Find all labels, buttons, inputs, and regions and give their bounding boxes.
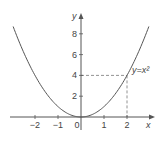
x-axis-arrow-icon — [149, 115, 155, 120]
x-axis-label: x — [145, 120, 151, 130]
dashed-guide-lines — [81, 75, 127, 117]
x-tick-label: −2 — [30, 120, 40, 130]
y-tick-label: 2 — [72, 91, 77, 101]
x-tick-label: −1 — [53, 120, 63, 130]
y-axis-arrow-icon — [79, 13, 84, 19]
x-tick-label: 1 — [101, 120, 106, 130]
y-axis-label: y — [71, 11, 77, 21]
y-tick-label: 4 — [72, 70, 77, 80]
curve-label: y=x² — [131, 65, 150, 75]
axis-labels: x y y=x² — [71, 11, 151, 130]
y-tick-label: 8 — [72, 29, 77, 39]
parabola-chart: −2−10122468 x y y=x² — [0, 0, 167, 142]
tick-marks: −2−10122468 — [30, 29, 130, 130]
y-tick-label: 6 — [72, 50, 77, 60]
x-tick-label: 2 — [124, 120, 129, 130]
x-tick-label: 0 — [74, 120, 79, 130]
